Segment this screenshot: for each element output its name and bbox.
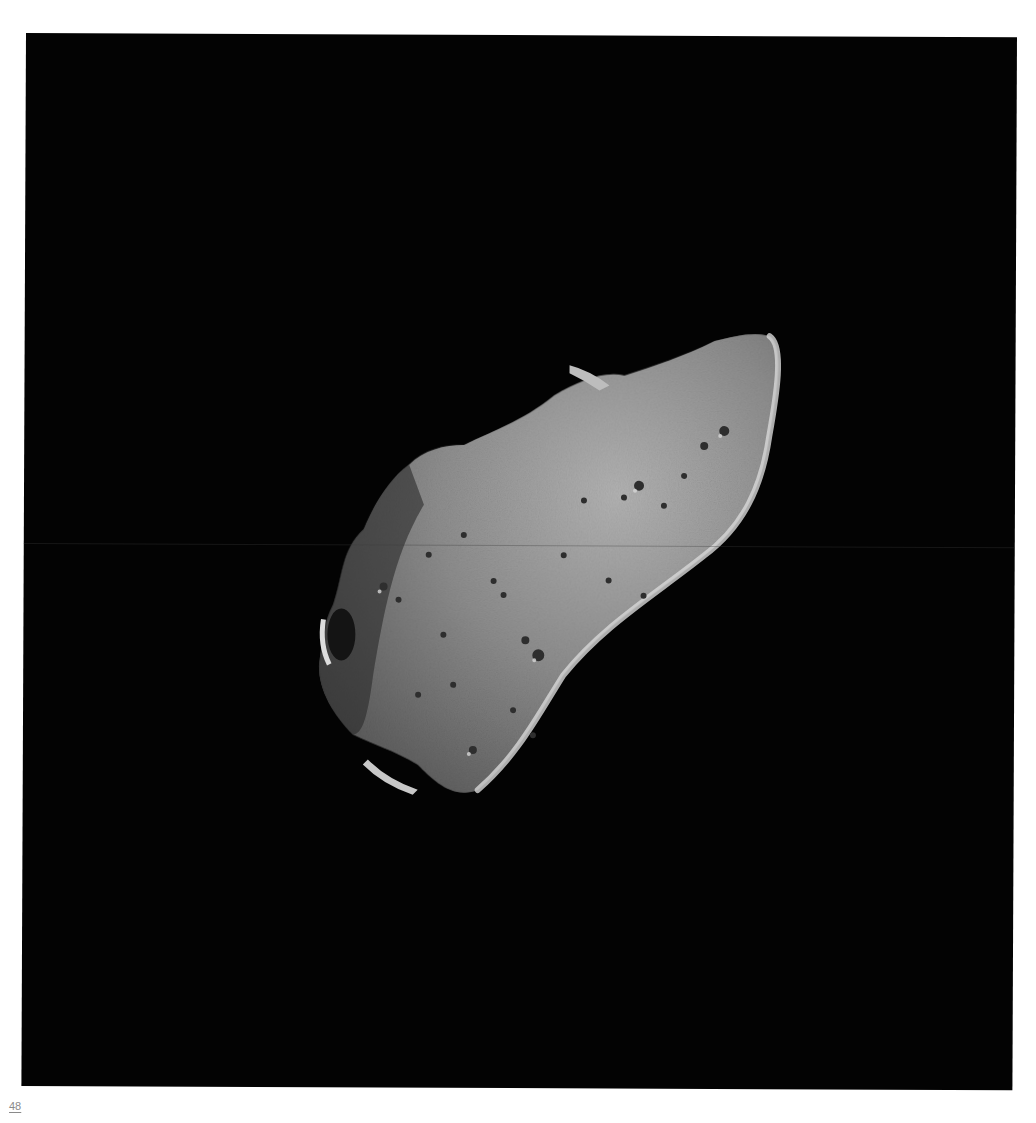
large-crater — [327, 608, 355, 660]
page-number: 48 — [9, 1100, 21, 1112]
asteroid-photograph — [21, 33, 1017, 1090]
asteroid-illustration — [21, 33, 1017, 1090]
fragment — [363, 759, 418, 794]
